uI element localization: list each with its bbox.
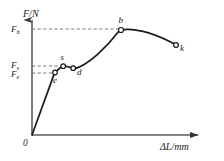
chart-canvas: F/N ΔL/mm 0 Fb Fs Fe e s d b k: [0, 0, 224, 161]
curve-strain-hardening: [75, 32, 119, 69]
point-label-d: d: [77, 67, 82, 77]
origin-label: 0: [23, 138, 28, 148]
x-axis-label: ΔL/mm: [159, 141, 189, 152]
point-marker-d[interactable]: [71, 66, 76, 71]
curve-elastic-linear: [32, 73, 54, 135]
force-elongation-chart: F/N ΔL/mm 0 Fb Fs Fe e s d b k: [0, 0, 224, 161]
point-label-k: k: [180, 43, 185, 53]
point-marker-b[interactable]: [119, 28, 124, 33]
point-label-e: e: [53, 75, 57, 85]
point-marker-k[interactable]: [174, 43, 179, 48]
point-label-s: s: [61, 52, 65, 62]
point-label-b: b: [119, 15, 124, 25]
curve-yield-lower: [65, 66, 71, 68]
y-tick-labels: Fb Fs Fe: [10, 24, 21, 80]
y-axis-label: F/N: [22, 8, 40, 19]
point-labels: e s d b k: [53, 15, 185, 85]
curve-necking: [124, 29, 174, 43]
y-tick-label-fb: Fb: [10, 24, 21, 35]
point-marker-s[interactable]: [61, 64, 66, 69]
